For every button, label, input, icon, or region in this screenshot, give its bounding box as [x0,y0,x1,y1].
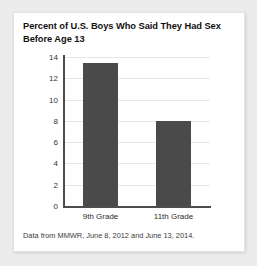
gridline [64,57,210,58]
plot-wrapper: 02468101214 9th Grade11th Grade [14,13,246,253]
y-axis-line [63,55,65,208]
y-tick-label: 2 [28,180,58,189]
x-tick-label: 9th Grade [83,212,119,221]
y-tick-label: 6 [28,138,58,147]
y-tick-label: 10 [28,95,58,104]
y-tick-label: 14 [28,53,58,62]
bar [156,121,191,206]
y-tick-label: 12 [28,74,58,83]
y-axis-tick-labels: 02468101214 [26,57,58,206]
y-tick-label: 8 [28,116,58,125]
y-tick-label: 0 [28,202,58,211]
x-axis-line [63,206,211,208]
x-tick-label: 11th Grade [154,212,193,221]
chart-card: Percent of U.S. Boys Who Said They Had S… [13,12,245,252]
source-note: Data from MMWR, June 8, 2012 and June 13… [23,231,194,240]
y-tick-label: 4 [28,159,58,168]
plot-area [64,57,210,206]
bar [83,63,118,206]
